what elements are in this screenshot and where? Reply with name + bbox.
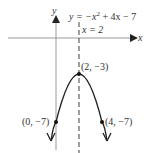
right-point-label: (4, −7) [105, 117, 132, 127]
parabola-graph [0, 0, 144, 153]
equation-label: y = −x2 + 4x − 7 [69, 9, 136, 22]
vertex-label: (2, −3) [81, 62, 108, 72]
symmetry-label: x = 2 [82, 25, 103, 35]
point-left [54, 120, 58, 124]
vertex-point [77, 72, 81, 76]
left-point-label: (0, −7) [22, 117, 49, 127]
x-axis-label: x [138, 33, 142, 43]
y-axis-label: y [52, 6, 56, 16]
point-right [100, 120, 104, 124]
